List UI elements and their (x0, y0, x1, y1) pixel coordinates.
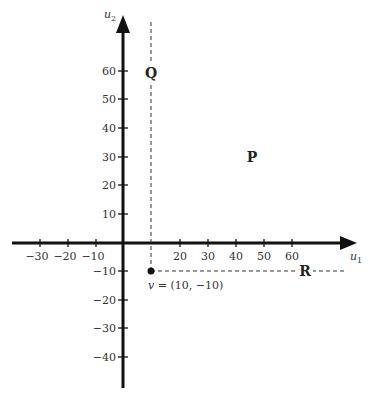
y-tick-labels: 60 50 40 30 20 10 −10 −20 −30 −40 (93, 65, 116, 364)
x-tick-label: 30 (201, 250, 215, 263)
y-tick-label: 40 (102, 122, 116, 135)
x-tick-label: −20 (53, 250, 76, 263)
point-v (148, 268, 155, 275)
region-label-p: P (247, 149, 258, 165)
coordinate-diagram: −30 −20 −10 20 30 40 50 60 60 50 40 30 2… (0, 0, 375, 402)
x-axis (12, 236, 357, 250)
y-tick-label: 30 (102, 151, 116, 164)
x-axis-label: u1 (350, 250, 362, 265)
x-tick-label: 60 (285, 250, 299, 263)
x-tick-label: 40 (229, 250, 243, 263)
y-axis-arrow-icon (116, 15, 130, 33)
x-tick-labels: −30 −20 −10 20 30 40 50 60 (25, 250, 299, 263)
region-label-r: R (299, 263, 311, 279)
y-tick-label: −40 (93, 351, 116, 364)
y-tick-label: −20 (93, 294, 116, 307)
point-v-label: v = (10, −10) (148, 279, 223, 292)
y-tick-label: 50 (102, 93, 116, 106)
x-tick-label: −30 (25, 250, 48, 263)
y-tick-label: 20 (102, 179, 116, 192)
x-axis-arrow-icon (340, 236, 357, 250)
y-tick-label: 10 (102, 208, 116, 221)
y-axis-label: u2 (104, 8, 116, 23)
x-tick-label: 50 (257, 250, 271, 263)
y-tick-label: 60 (102, 65, 116, 78)
region-label-q: Q (145, 65, 157, 81)
x-tick-label: 20 (173, 250, 187, 263)
x-tick-label: −10 (81, 250, 104, 263)
y-tick-label: −30 (93, 322, 116, 335)
y-tick-label: −10 (93, 265, 116, 278)
